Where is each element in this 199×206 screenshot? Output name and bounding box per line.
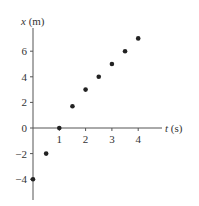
data-point <box>70 104 75 109</box>
data-point <box>57 126 62 131</box>
x-tick-label: 4 <box>135 133 141 145</box>
x-tick-label: 3 <box>109 133 115 145</box>
y-tick-label: −4 <box>15 173 27 185</box>
x-ticks: 1234 <box>57 128 142 145</box>
data-points <box>31 36 141 181</box>
y-tick-label: 0 <box>22 122 28 134</box>
x-tick-label: 1 <box>57 133 63 145</box>
y-tick-label: 4 <box>22 71 28 83</box>
data-point <box>136 36 141 41</box>
y-tick-label: −2 <box>15 148 27 160</box>
y-axis-label: x (m) <box>20 15 45 28</box>
y-tick-label: 6 <box>22 45 28 57</box>
data-point <box>44 151 49 156</box>
data-point <box>96 75 101 80</box>
y-ticks: 6420−2−4 <box>15 45 33 185</box>
chart-axes <box>33 28 162 200</box>
data-point <box>123 49 128 54</box>
position-time-chart: x (m) t (s) 6420−2−4 1234 <box>0 0 199 206</box>
x-axis-label: t (s) <box>165 122 183 135</box>
y-tick-label: 2 <box>22 96 28 108</box>
data-point <box>110 62 115 67</box>
data-point <box>31 177 36 182</box>
data-point <box>83 87 88 92</box>
x-tick-label: 2 <box>83 133 89 145</box>
